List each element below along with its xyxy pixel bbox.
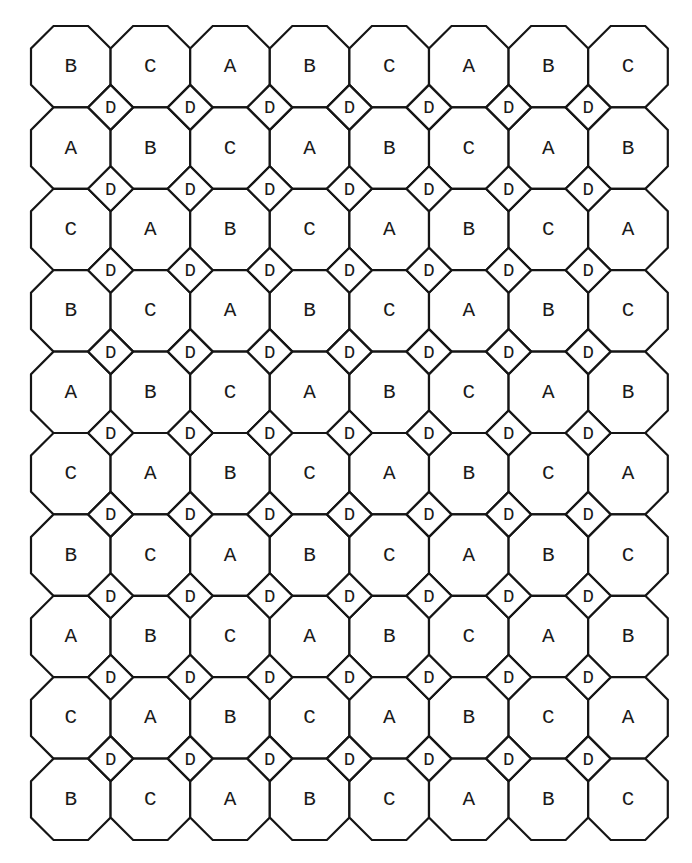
octagon-label: A [542,137,555,160]
square-label: D [582,586,593,608]
octagon-tile: A [31,352,111,433]
octagon-tile: B [190,189,270,270]
square-label: D [105,423,116,445]
octagon-tile: A [270,596,350,677]
square-label: D [503,342,514,364]
octagon-tile: C [111,514,191,595]
octagon-tile: B [509,514,589,595]
octagon-tile: B [270,26,350,107]
octagon-label: B [144,625,157,648]
square-label: D [184,179,195,201]
octagon-tile: B [429,677,509,758]
octagon-tile: C [190,596,270,677]
octagon-tile: C [111,759,191,840]
octagon-tile: C [270,433,350,514]
square-label: D [503,749,514,771]
square-label: D [344,749,355,771]
octagon-tile: A [31,596,111,677]
octagon-tile: C [270,677,350,758]
octagon-label: B [64,55,77,78]
octagon-tile: C [349,270,429,351]
square-label: D [423,97,434,119]
square-label: D [264,504,275,526]
octagon-label: B [462,462,475,485]
octagon-label: C [383,55,396,78]
square-label: D [105,260,116,282]
octagon-tile: B [349,352,429,433]
octagon-tile: C [190,352,270,433]
square-label: D [582,260,593,282]
octagon-tile: C [31,189,111,270]
octagon-label: C [622,299,635,322]
octagon-tile: C [509,189,589,270]
square-label: D [344,97,355,119]
octagon-tile: B [588,352,668,433]
octagon-tile: C [429,596,509,677]
octagon-label: A [462,299,475,322]
octagon-tile: C [349,26,429,107]
octagon-tile: A [349,677,429,758]
octagon-tile: A [111,677,191,758]
octagon-label: A [622,706,635,729]
square-label: D [582,423,593,445]
octagon-tile: B [111,596,191,677]
octagon-label: A [64,381,77,404]
octagon-tile: C [349,514,429,595]
octagon-label: B [144,381,157,404]
octagon-tile: B [588,107,668,188]
square-label: D [264,667,275,689]
square-label: D [344,179,355,201]
square-label: D [423,342,434,364]
octagon-label: B [462,218,475,241]
square-label: D [582,342,593,364]
octagon-label: B [224,218,237,241]
octagon-label: B [224,706,237,729]
square-label: D [423,749,434,771]
octagon-label: C [462,137,475,160]
octagon-tile: C [31,433,111,514]
square-label: D [503,586,514,608]
square-label: D [105,586,116,608]
octagon-label: C [542,706,555,729]
octagon-tile: B [111,107,191,188]
octagon-label: C [144,55,157,78]
octagon-label: C [64,706,77,729]
octagon-label: A [224,299,237,322]
square-label: D [105,667,116,689]
octagon-label: B [542,299,555,322]
octagon-tile: A [190,270,270,351]
square-label: D [264,342,275,364]
octagon-tile: A [270,352,350,433]
octagon-label: A [144,706,157,729]
square-label: D [423,504,434,526]
octagon-tile: C [588,759,668,840]
octagon-tile: C [509,677,589,758]
square-label: D [184,749,195,771]
square-label: D [503,667,514,689]
octagon-tile: A [111,189,191,270]
octagon-label: B [144,137,157,160]
square-label: D [105,504,116,526]
octagon-tile: A [31,107,111,188]
square-label: D [184,260,195,282]
octagon-tile: A [429,759,509,840]
octagon-label: B [622,137,635,160]
octagon-tile: C [31,677,111,758]
octagon-label: A [383,462,396,485]
octagon-tile: A [509,107,589,188]
octagon-label: C [622,788,635,811]
octagon-label: B [303,55,316,78]
octagon-label: C [303,218,316,241]
octagon-tile: B [190,677,270,758]
square-label: D [344,504,355,526]
octagon-label: C [622,544,635,567]
octagon-label: C [144,788,157,811]
octagon-tile: B [270,514,350,595]
square-label: D [264,586,275,608]
octagon-tile: C [111,270,191,351]
square-label: D [184,667,195,689]
square-label: D [184,586,195,608]
octagon-tile: B [509,270,589,351]
octagon-tile: B [270,759,350,840]
octagon-tile: A [509,352,589,433]
